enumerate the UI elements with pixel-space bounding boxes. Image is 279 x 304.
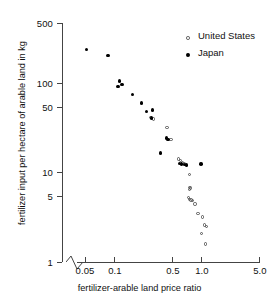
data-point-japan — [116, 85, 119, 88]
data-point-japan — [131, 93, 134, 96]
data-point-japan — [85, 48, 88, 51]
data-point-united-states — [193, 202, 196, 205]
scatter-chart: 500 100 50 10 5 1 0.05 0.1 0.5 1.0 5.0 U… — [0, 0, 279, 304]
legend-label: Japan — [198, 47, 224, 58]
data-point-japan — [166, 138, 169, 141]
data-point-united-states — [169, 138, 172, 141]
data-point-japan — [199, 162, 202, 165]
open-circle-icon — [186, 36, 190, 40]
data-point-united-states — [188, 173, 191, 176]
data-points-layer — [0, 0, 279, 304]
filled-circle-icon — [186, 53, 190, 57]
y-axis-title: fertilizer input per hectare of arable l… — [17, 13, 27, 253]
data-point-japan — [145, 110, 148, 113]
data-point-japan — [106, 54, 109, 57]
data-point-united-states — [165, 126, 168, 129]
data-point-united-states — [196, 212, 199, 215]
data-point-japan — [159, 151, 162, 154]
data-point-united-states — [200, 232, 203, 235]
data-point-united-states — [188, 188, 191, 191]
data-point-japan — [120, 83, 123, 86]
data-point-united-states — [204, 242, 207, 245]
data-point-japan — [151, 108, 154, 111]
data-point-japan — [185, 163, 188, 166]
legend-label: United States — [198, 30, 255, 41]
data-point-united-states — [201, 215, 204, 218]
x-axis-title: fertilizer-arable land price ratio — [0, 283, 279, 293]
data-point-japan — [150, 116, 153, 119]
data-point-japan — [140, 101, 143, 104]
data-point-united-states — [205, 225, 208, 228]
